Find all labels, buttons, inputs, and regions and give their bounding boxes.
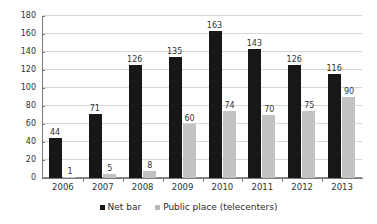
bar-value-label: 143 xyxy=(243,40,265,48)
legend-item-public-place[interactable]: Public place (telecenters) xyxy=(155,202,277,212)
x-axis-tick-label: 2012 xyxy=(282,182,322,192)
bar-chart: 44171512681356016374143701267511690 0204… xyxy=(0,0,377,224)
y-axis-tick-mark xyxy=(42,70,45,71)
y-axis-tick-label: 60 xyxy=(8,120,36,128)
x-axis-separator xyxy=(163,178,164,182)
bar-group: 441 xyxy=(43,16,83,178)
x-axis-tick-label: 2010 xyxy=(203,182,243,192)
bar-pub[interactable] xyxy=(302,111,315,179)
bar-value-label: 71 xyxy=(84,105,106,113)
y-axis-tick-mark xyxy=(42,88,45,89)
x-axis-tick-label: 2008 xyxy=(123,182,163,192)
chart-legend: Net bar Public place (telecenters) xyxy=(0,202,377,212)
bar-value-label: 126 xyxy=(283,56,305,64)
x-axis-tick-label: 2009 xyxy=(163,182,203,192)
bar-net[interactable] xyxy=(288,65,301,178)
x-axis-tick-label: 2011 xyxy=(242,182,282,192)
x-axis-separator xyxy=(322,178,323,182)
y-axis-tick-label: 160 xyxy=(8,30,36,38)
bar-value-label: 90 xyxy=(338,88,360,96)
x-axis-separator xyxy=(282,178,283,182)
bar-value-label: 74 xyxy=(219,102,241,110)
y-axis-tick-label: 180 xyxy=(8,12,36,20)
x-axis-separator xyxy=(123,178,124,182)
x-axis-separator xyxy=(203,178,204,182)
legend-label: Net bar xyxy=(108,202,142,212)
x-axis-separator xyxy=(242,178,243,182)
y-axis-tick-mark xyxy=(42,142,45,143)
y-axis-tick-mark xyxy=(42,178,45,179)
x-axis-separator xyxy=(83,178,84,182)
bar-value-label: 44 xyxy=(44,129,66,137)
bar-group: 715 xyxy=(83,16,123,178)
bar-value-label: 116 xyxy=(323,65,345,73)
y-axis-tick-mark xyxy=(42,160,45,161)
y-axis-tick-label: 140 xyxy=(8,48,36,56)
bar-group: 13560 xyxy=(163,16,203,178)
bar-pub[interactable] xyxy=(262,115,275,178)
plot-area: 44171512681356016374143701267511690 xyxy=(43,16,362,178)
y-axis-line xyxy=(42,16,43,179)
bar-group: 12675 xyxy=(282,16,322,178)
legend-swatch-icon-net-bar xyxy=(100,205,105,210)
bar-pub[interactable] xyxy=(342,97,355,178)
bar-pub[interactable] xyxy=(223,111,236,178)
y-axis-tick-label: 40 xyxy=(8,138,36,146)
bar-value-label: 5 xyxy=(99,165,121,173)
bar-value-label: 1 xyxy=(59,168,81,176)
x-axis-tick-label: 2007 xyxy=(83,182,123,192)
y-axis-tick-label: 80 xyxy=(8,102,36,110)
y-axis-tick-label: 20 xyxy=(8,156,36,164)
bar-value-label: 70 xyxy=(258,106,280,114)
y-axis-tick-label: 0 xyxy=(8,174,36,182)
bar-value-label: 135 xyxy=(164,48,186,56)
bar-value-label: 75 xyxy=(298,102,320,110)
x-axis-tick-label: 2006 xyxy=(43,182,83,192)
bar-group: 14370 xyxy=(242,16,282,178)
bar-pub[interactable] xyxy=(183,124,196,178)
legend-swatch-icon-public-place xyxy=(155,205,160,210)
bar-value-label: 60 xyxy=(179,115,201,123)
bar-group: 11690 xyxy=(322,16,362,178)
y-axis-tick-label: 120 xyxy=(8,66,36,74)
legend-item-net-bar[interactable]: Net bar xyxy=(100,202,142,212)
y-axis-tick-label: 100 xyxy=(8,84,36,92)
bar-pub[interactable] xyxy=(143,171,156,178)
y-axis-tick-mark xyxy=(42,34,45,35)
x-axis-tick-label: 2013 xyxy=(322,182,362,192)
y-axis-tick-mark xyxy=(42,124,45,125)
bar-group: 16374 xyxy=(203,16,243,178)
bar-value-label: 126 xyxy=(124,56,146,64)
y-axis-tick-mark xyxy=(42,106,45,107)
legend-label: Public place (telecenters) xyxy=(163,202,277,212)
y-axis-tick-mark xyxy=(42,16,45,17)
bar-value-label: 163 xyxy=(204,22,226,30)
bar-group: 1268 xyxy=(123,16,163,178)
y-axis-tick-mark xyxy=(42,52,45,53)
bar-value-label: 8 xyxy=(139,162,161,170)
